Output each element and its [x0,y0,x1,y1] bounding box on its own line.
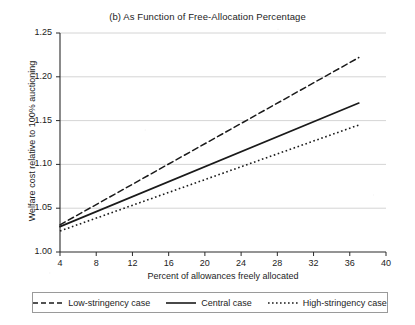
x-tick-label: 40 [374,258,398,268]
y-tick-label: 1.20 [16,71,52,81]
x-tick-label: 8 [84,258,108,268]
x-tick-label: 36 [338,258,362,268]
y-tick-marks [56,33,60,252]
series-lines [60,58,359,231]
x-tick-marks [60,252,386,256]
y-tick-label: 1.15 [16,115,52,125]
legend-item-low-stringency: Low-stringency case [33,298,150,308]
x-tick-label: 16 [157,258,181,268]
y-tick-label: 1.10 [16,158,52,168]
legend-item-central: Central case [166,298,252,308]
gridlines [60,33,386,208]
x-tick-label: 4 [48,258,72,268]
legend-label-low-stringency: Low-stringency case [68,298,150,308]
plot-frame [60,33,386,252]
x-tick-label: 12 [120,258,144,268]
x-tick-label: 24 [229,258,253,268]
chart-figure: (b) As Function of Free-Allocation Perce… [0,0,415,325]
dashed-line-swatch-icon [33,299,63,307]
y-tick-label: 1.05 [16,202,52,212]
chart-legend: Low-stringency case Central case High-st… [32,292,388,313]
solid-line-swatch-icon [166,299,196,307]
plot-area [0,0,415,325]
dotted-line-swatch-icon [268,299,298,307]
legend-item-high-stringency: High-stringency case [268,298,387,308]
legend-label-central: Central case [201,298,252,308]
x-tick-label: 20 [193,258,217,268]
x-tick-label: 32 [302,258,326,268]
legend-label-high-stringency: High-stringency case [303,298,387,308]
y-tick-label: 1.00 [16,246,52,256]
y-tick-label: 1.25 [16,27,52,37]
x-tick-label: 28 [265,258,289,268]
